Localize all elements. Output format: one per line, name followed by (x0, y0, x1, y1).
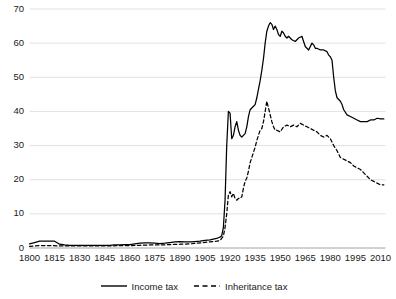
y-axis-tick-10: 10 (0, 207, 24, 218)
y-axis-tick-0: 0 (0, 242, 24, 253)
legend-swatch-solid (101, 282, 127, 290)
legend-label-income-tax: Income tax (132, 281, 178, 292)
y-axis-tick-30: 30 (0, 139, 24, 150)
legend-swatch-dashed (194, 282, 220, 290)
y-axis-tick-60: 60 (0, 37, 24, 48)
y-axis-tick-20: 20 (0, 173, 24, 184)
legend-item-inheritance-tax: Inheritance tax (194, 281, 287, 292)
x-axis-tick-2010: 2010 (363, 252, 396, 263)
chart-legend: Income tax Inheritance tax (0, 277, 388, 295)
series-line-income-tax (30, 23, 384, 246)
y-axis-tick-70: 70 (0, 3, 24, 14)
y-axis-tick-50: 50 (0, 71, 24, 82)
legend-label-inheritance-tax: Inheritance tax (225, 281, 287, 292)
y-axis-tick-40: 40 (0, 105, 24, 116)
legend-item-income-tax: Income tax (101, 281, 178, 292)
series-line-inheritance-tax (30, 101, 384, 246)
